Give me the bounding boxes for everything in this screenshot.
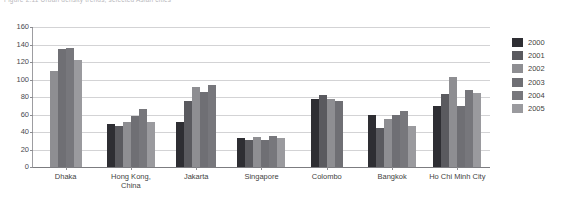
- bar-group: [98, 27, 163, 167]
- x-tick-mark: [261, 167, 262, 170]
- x-axis-label: Jakarta: [164, 172, 229, 196]
- bar: [408, 126, 416, 167]
- legend-swatch: [512, 91, 523, 100]
- y-tick-label: 100: [5, 75, 29, 84]
- legend-item[interactable]: 2003: [512, 76, 564, 89]
- bar: [184, 101, 192, 168]
- bar-group: [425, 27, 490, 167]
- legend-item[interactable]: 2002: [512, 62, 564, 75]
- bar: [66, 48, 74, 167]
- x-axis-label: Singapore: [229, 172, 294, 196]
- x-tick-mark: [131, 167, 132, 170]
- legend-swatch: [512, 78, 523, 87]
- bar: [208, 85, 216, 167]
- y-tick-label: 160: [5, 22, 29, 31]
- x-axis-label: Dhaka: [33, 172, 98, 196]
- x-tick-mark: [66, 167, 67, 170]
- bar: [433, 106, 441, 167]
- x-axis-labels: DhakaHong Kong,ChinaJakartaSingaporeColo…: [33, 172, 490, 196]
- y-tick-label: 0: [5, 162, 29, 171]
- bar: [376, 128, 384, 167]
- legend-swatch: [512, 38, 523, 47]
- bar: [327, 99, 335, 167]
- bar: [441, 94, 449, 167]
- legend-swatch: [512, 104, 523, 113]
- bar: [311, 99, 319, 167]
- legend-label: 2002: [528, 64, 545, 73]
- bar: [261, 140, 269, 167]
- bar: [449, 77, 457, 167]
- bar: [115, 126, 123, 167]
- bar: [131, 116, 139, 167]
- bar: [58, 49, 66, 167]
- y-tick-mark: [30, 167, 33, 168]
- x-tick-mark: [327, 167, 328, 170]
- bar: [277, 138, 285, 167]
- bar: [253, 137, 261, 167]
- legend-item[interactable]: 2005: [512, 102, 564, 115]
- bar: [457, 106, 465, 167]
- legend-label: 2000: [528, 38, 545, 47]
- bar-groups: [33, 27, 490, 167]
- bar: [147, 122, 155, 168]
- bar: [200, 92, 208, 167]
- y-tick-label: 140: [5, 40, 29, 49]
- chart-figure: Figure 2.11 Urban density trends, select…: [0, 0, 565, 198]
- legend-swatch: [512, 51, 523, 60]
- bar: [192, 87, 200, 168]
- figure-caption: Figure 2.11 Urban density trends, select…: [4, 0, 324, 4]
- legend-item[interactable]: 2001: [512, 49, 564, 62]
- bar: [392, 115, 400, 168]
- bar: [335, 101, 343, 167]
- bar: [237, 138, 245, 167]
- x-axis-label: Hong Kong,China: [98, 172, 163, 196]
- bar: [319, 95, 327, 167]
- legend-swatch: [512, 64, 523, 73]
- bar-group: [33, 27, 98, 167]
- y-tick-label: 40: [5, 127, 29, 136]
- bar: [473, 93, 481, 167]
- x-tick-mark: [196, 167, 197, 170]
- bar-group: [294, 27, 359, 167]
- legend-item[interactable]: 2000: [512, 36, 564, 49]
- bar: [107, 124, 115, 167]
- x-axis-label: Bangkok: [359, 172, 424, 196]
- bar: [400, 111, 408, 167]
- bar: [176, 122, 184, 167]
- bar: [74, 60, 82, 167]
- x-tick-mark: [392, 167, 393, 170]
- bar: [368, 115, 376, 167]
- chart-legend: 200020012002200320042005: [512, 36, 564, 115]
- plot-area: 020406080100120140160: [33, 27, 490, 167]
- x-tick-mark: [457, 167, 458, 170]
- legend-item[interactable]: 2004: [512, 89, 564, 102]
- bar: [269, 136, 277, 167]
- legend-label: 2005: [528, 104, 545, 113]
- bar-group: [359, 27, 424, 167]
- bar-group: [229, 27, 294, 167]
- bar: [123, 122, 131, 168]
- bar: [50, 71, 58, 167]
- y-tick-label: 60: [5, 110, 29, 119]
- bar: [384, 119, 392, 167]
- x-axis-label: Colombo: [294, 172, 359, 196]
- bar: [465, 90, 473, 167]
- legend-label: 2004: [528, 91, 545, 100]
- bar: [245, 140, 253, 167]
- y-tick-label: 120: [5, 57, 29, 66]
- legend-label: 2003: [528, 78, 545, 87]
- bar-group: [164, 27, 229, 167]
- bar: [139, 109, 147, 167]
- legend-label: 2001: [528, 51, 545, 60]
- y-tick-label: 20: [5, 145, 29, 154]
- y-tick-label: 80: [5, 92, 29, 101]
- x-axis-label: Ho Chi Minh City: [425, 172, 490, 196]
